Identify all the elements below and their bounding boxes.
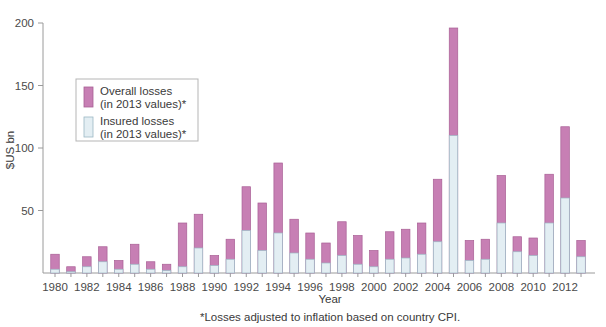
y-axis-title: $US bn	[4, 131, 16, 169]
x-tick-label: 2010	[520, 281, 546, 293]
insured-loss-segment[interactable]	[513, 252, 522, 273]
x-tick-label: 1988	[170, 281, 196, 293]
insured-loss-segment[interactable]	[401, 258, 410, 273]
legend-swatch-insured[interactable]	[84, 117, 93, 137]
insured-loss-segment[interactable]	[338, 256, 347, 274]
insured-loss-segment[interactable]	[497, 223, 506, 273]
insured-loss-segment[interactable]	[130, 264, 139, 273]
x-tick-label: 1980	[42, 281, 68, 293]
x-tick-label: 2012	[552, 281, 578, 293]
insured-loss-segment[interactable]	[545, 223, 554, 273]
insured-loss-segment[interactable]	[577, 257, 586, 273]
x-axis-title: Year	[318, 293, 341, 305]
chart-footnote: *Losses adjusted to inflation based on c…	[200, 311, 460, 323]
bar-2002[interactable]	[401, 229, 410, 273]
bars-group	[51, 28, 586, 273]
bar-2004[interactable]	[433, 179, 442, 273]
insured-loss-segment[interactable]	[529, 256, 538, 274]
bar-2003[interactable]	[417, 223, 426, 273]
insured-loss-segment[interactable]	[51, 269, 60, 273]
bar-2009[interactable]	[513, 237, 522, 273]
bar-2008[interactable]	[497, 176, 506, 274]
insured-loss-segment[interactable]	[178, 267, 187, 273]
bar-1981[interactable]	[67, 267, 76, 273]
bar-1982[interactable]	[83, 257, 92, 273]
x-tick-label: 1998	[329, 281, 355, 293]
bar-2000[interactable]	[370, 251, 379, 274]
bar-1991[interactable]	[226, 239, 235, 273]
insured-loss-segment[interactable]	[417, 254, 426, 273]
bar-1983[interactable]	[99, 247, 108, 273]
insured-loss-segment[interactable]	[561, 198, 570, 273]
insured-loss-segment[interactable]	[290, 253, 299, 273]
bar-2010[interactable]	[529, 238, 538, 273]
bar-1992[interactable]	[242, 187, 251, 273]
insured-loss-segment[interactable]	[67, 272, 76, 273]
bar-1994[interactable]	[274, 163, 283, 273]
x-tick-label: 2002	[393, 281, 419, 293]
insured-loss-segment[interactable]	[322, 263, 331, 273]
bar-1990[interactable]	[210, 256, 219, 274]
bar-1993[interactable]	[258, 203, 267, 273]
x-tick-label: 1994	[265, 281, 291, 293]
x-tick-label: 1984	[106, 281, 132, 293]
insured-loss-segment[interactable]	[465, 261, 474, 274]
legend-label-line1: Overall losses	[100, 85, 172, 97]
bar-1986[interactable]	[146, 262, 155, 273]
bar-1984[interactable]	[115, 261, 124, 274]
bar-1999[interactable]	[354, 236, 363, 274]
insured-loss-segment[interactable]	[99, 262, 108, 273]
bar-1997[interactable]	[322, 243, 331, 273]
y-tick-label: 50	[21, 205, 34, 217]
x-tick-label: 1990	[202, 281, 228, 293]
bar-1980[interactable]	[51, 254, 60, 273]
bar-1989[interactable]	[194, 214, 203, 273]
bar-2007[interactable]	[481, 239, 490, 273]
bar-1988[interactable]	[178, 223, 187, 273]
insured-loss-segment[interactable]	[194, 248, 203, 273]
x-tick-label: 1992	[233, 281, 259, 293]
legend-label-line1: Insured losses	[100, 115, 174, 127]
bar-2013[interactable]	[577, 241, 586, 274]
legend-swatch-overall[interactable]	[84, 87, 93, 107]
bar-2006[interactable]	[465, 241, 474, 274]
insured-loss-segment[interactable]	[83, 267, 92, 273]
legend-label-line2: (in 2013 values)*	[100, 128, 187, 140]
x-tick-label: 1986	[138, 281, 164, 293]
bar-2005[interactable]	[449, 28, 458, 273]
insured-loss-segment[interactable]	[115, 269, 124, 273]
legend: Overall losses(in 2013 values)*Insured l…	[76, 79, 198, 141]
insured-loss-segment[interactable]	[481, 259, 490, 273]
x-tick-label: 2004	[425, 281, 451, 293]
insured-loss-segment[interactable]	[370, 267, 379, 273]
y-tick-label: 200	[15, 17, 34, 29]
losses-bar-chart: 50100150200$US bn19801982198419861988199…	[0, 0, 606, 327]
bar-2011[interactable]	[545, 174, 554, 273]
insured-loss-segment[interactable]	[146, 269, 155, 273]
insured-loss-segment[interactable]	[162, 271, 171, 274]
insured-loss-segment[interactable]	[274, 233, 283, 273]
x-tick-label: 2000	[361, 281, 387, 293]
bar-2001[interactable]	[385, 232, 394, 273]
overall-loss-segment[interactable]	[178, 223, 187, 273]
insured-loss-segment[interactable]	[226, 259, 235, 273]
insured-loss-segment[interactable]	[242, 231, 251, 274]
bar-1985[interactable]	[130, 244, 139, 273]
insured-loss-segment[interactable]	[433, 242, 442, 273]
chart-container: 50100150200$US bn19801982198419861988199…	[0, 0, 606, 327]
bar-1987[interactable]	[162, 264, 171, 273]
bar-1996[interactable]	[306, 233, 315, 273]
insured-loss-segment[interactable]	[449, 136, 458, 274]
x-tick-label: 2006	[457, 281, 483, 293]
x-tick-label: 1996	[297, 281, 323, 293]
insured-loss-segment[interactable]	[258, 251, 267, 274]
insured-loss-segment[interactable]	[210, 266, 219, 274]
bar-1995[interactable]	[290, 219, 299, 273]
y-tick-label: 150	[15, 80, 34, 92]
bar-1998[interactable]	[338, 222, 347, 273]
insured-loss-segment[interactable]	[306, 259, 315, 273]
insured-loss-segment[interactable]	[354, 264, 363, 273]
bar-2012[interactable]	[561, 127, 570, 273]
insured-loss-segment[interactable]	[385, 259, 394, 273]
y-tick-label: 100	[15, 142, 34, 154]
